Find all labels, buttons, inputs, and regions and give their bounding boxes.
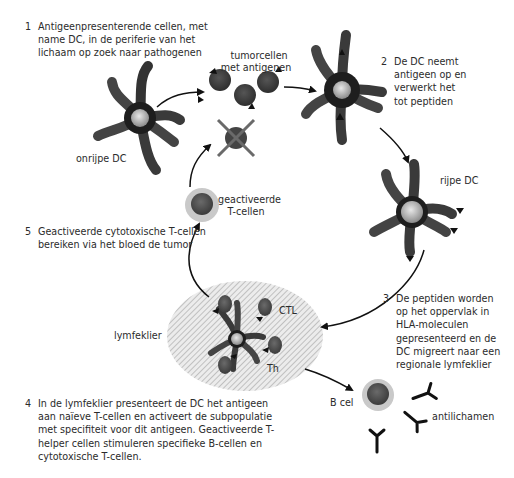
label-b-cell: B cel [330,397,353,410]
label-immature-dc: onrijpe DC [76,153,126,166]
label-tumor-cells: tumorcellenmet antigenen [216,37,296,75]
label-ctl: CTL [279,305,297,318]
antigen-uptake-dc-cell [306,35,382,140]
label-mature-dc: rijpe DC [440,175,478,188]
label-lymph-node: lymfeklier [114,330,162,343]
step-5-text: 5 Geactiveerde cytotoxische T-cellen ber… [25,225,31,265]
step-2-text: 2 De DC neemt antigeen op en verwerkt he… [381,55,387,95]
b-cell [362,379,394,411]
step-5-description: Geactiveerde cytotoxische T-cellen berei… [38,225,206,251]
step-3-description: De peptiden worden op het oppervlak in H… [396,292,500,371]
step-4-description: In de lymfeklier presenteert de DC het a… [38,397,274,463]
label-th: Th [267,363,279,376]
label-antibodies: antilichamen [432,411,494,424]
step-1-description: Antigeenpresenterende cellen, met name D… [38,20,208,60]
step-2-description: De DC neemt antigeen op en verwerkt het … [394,55,466,108]
step-4-text: 4 In de lymfeklier presenteert de DC het… [25,397,31,437]
label-activated-t-cells: geactiveerdeT-cellen [212,181,280,219]
step-3-text: 3 De peptiden worden op het oppervlak in… [383,292,389,332]
tumor-cells [198,66,282,156]
step-1-text: 1 Antigeenpresenterende cellen, met name… [25,20,31,60]
